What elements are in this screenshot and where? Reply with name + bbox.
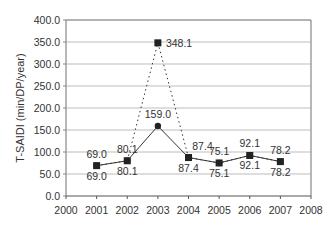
y-tick-label: 0.0 (45, 190, 60, 202)
x-tick-label: 2003 (146, 204, 170, 216)
data-label-dashed: 348.1 (166, 37, 192, 49)
square-marker (154, 39, 161, 46)
circle-marker (247, 152, 253, 158)
data-label-solid: 87.4 (178, 162, 199, 174)
chart: 0.050.0100.0150.0200.0250.0300.0350.0400… (0, 0, 331, 226)
y-tick-label: 350.0 (34, 36, 60, 48)
y-tick-label: 100.0 (34, 146, 60, 158)
x-tick-label: 2006 (238, 204, 262, 216)
data-label-dashed: 92.1 (240, 137, 261, 149)
y-axis-label: T-SAIDI (min/DP/year) (14, 53, 26, 162)
data-label-solid: 159.0 (145, 108, 171, 120)
line-chart: 0.050.0100.0150.0200.0250.0300.0350.0400… (0, 0, 331, 226)
x-tick-label: 2008 (299, 204, 323, 216)
data-label-dashed: 75.1 (209, 145, 230, 157)
y-tick-label: 150.0 (34, 124, 60, 136)
circle-marker (155, 123, 161, 129)
circle-marker (93, 162, 99, 168)
data-label-solid: 92.1 (240, 159, 261, 171)
y-tick-label: 400.0 (34, 14, 60, 26)
x-tick-label: 2001 (85, 204, 109, 216)
circle-marker (216, 160, 222, 166)
x-tick-label: 2005 (207, 204, 231, 216)
data-label-solid: 75.1 (209, 167, 230, 179)
data-label-solid: 80.1 (117, 165, 138, 177)
data-label-dashed: 69.0 (86, 148, 107, 160)
y-axis-ticks: 0.050.0100.0150.0200.0250.0300.0350.0400… (34, 14, 60, 202)
x-tick-label: 2004 (177, 204, 201, 216)
x-tick-label: 2002 (116, 204, 140, 216)
y-tick-label: 300.0 (34, 58, 60, 70)
y-tick-label: 50.0 (40, 168, 61, 180)
x-tick-label: 2007 (269, 204, 293, 216)
data-label-solid: 69.0 (86, 170, 107, 182)
y-tick-label: 200.0 (34, 102, 60, 114)
data-label-dashed: 78.2 (270, 144, 291, 156)
circle-marker (185, 154, 191, 160)
x-tick-label: 2000 (54, 204, 78, 216)
x-axis-ticks: 200020012002200320042005200620072008 (54, 204, 323, 216)
data-label-dashed: 80.1 (117, 143, 138, 155)
circle-marker (277, 158, 283, 164)
data-label-solid: 78.2 (270, 166, 291, 178)
circle-marker (124, 158, 130, 164)
y-tick-label: 250.0 (34, 80, 60, 92)
